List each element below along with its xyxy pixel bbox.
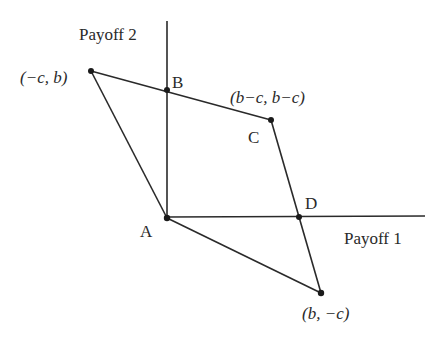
label-a: A [140, 222, 153, 241]
point-c [268, 117, 274, 123]
payoff-diagram: Payoff 2 Payoff 1 B C A D (−c, b) (b−c, … [0, 0, 440, 340]
label-b: B [172, 73, 183, 92]
label-c: C [248, 128, 259, 147]
diagram-canvas: Payoff 2 Payoff 1 B C A D (−c, b) (b−c, … [0, 0, 440, 340]
label-d: D [305, 194, 317, 213]
x-axis-title: Payoff 1 [344, 229, 402, 248]
point-d [296, 214, 302, 220]
point-neg-c-b [88, 68, 94, 74]
point-b [164, 87, 170, 93]
edge-bottom [167, 218, 321, 293]
x-axis [167, 216, 425, 217]
point-a [164, 215, 170, 221]
edge-left [91, 71, 167, 218]
coord-label-bc-bc: (b−c, b−c) [230, 88, 305, 107]
y-axis-title: Payoff 2 [79, 25, 137, 44]
coord-label-neg-c-b: (−c, b) [20, 68, 68, 87]
point-b-neg-c [318, 290, 324, 296]
coord-label-b-neg-c: (b, −c) [302, 304, 350, 323]
